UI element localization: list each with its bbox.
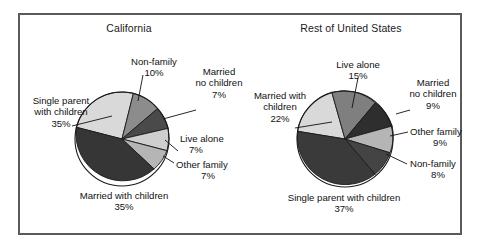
label-married-with-children-ca-value: 35% [54,201,194,212]
label-single-parent-ca-line1: Single parent [22,95,100,106]
pie-chart-figure: California Non-family 10% Married no chi… [0,0,480,251]
label-single-parent-us: Single parent with children 37% [262,192,426,215]
panel-title-california: California [18,22,240,34]
label-single-parent-ca-line2: with children [22,106,100,117]
label-non-family-us-name: Non-family [410,158,480,169]
label-non-family-ca-name: Non-family [116,56,192,67]
label-married-with-children-ca: Married with children 35% [54,190,194,213]
label-single-parent-ca-value: 35% [22,118,100,129]
label-married-no-children-us-value: 9% [396,100,470,111]
label-married-no-children-us-line1: Married [396,77,470,88]
label-other-family-ca-value: 7% [176,170,240,181]
label-married-with-children-us-line2: children [240,101,320,112]
label-single-parent-ca: Single parent with children 35% [22,95,100,129]
label-live-alone-us-name: Live alone [322,59,394,70]
label-other-family-ca: Other family 7% [176,159,250,182]
label-single-parent-us-name: Single parent with children [262,192,426,203]
label-married-with-children-us-value: 22% [240,113,320,124]
label-live-alone-us-value: 15% [322,70,394,81]
label-married-no-children-us: Married no children 9% [396,77,470,111]
label-other-family-ca-name: Other family [176,159,250,170]
label-non-family-ca: Non-family 10% [116,56,192,79]
label-married-with-children-ca-name: Married with children [54,190,194,201]
panel-title-rest-of-us: Rest of United States [240,22,462,34]
label-non-family-us-value: 8% [410,169,466,180]
label-single-parent-us-value: 37% [262,203,426,214]
label-married-with-children-us: Married with children 22% [240,90,320,124]
label-live-alone-us: Live alone 15% [322,59,394,82]
label-non-family-ca-value: 10% [116,67,192,78]
label-married-with-children-us-line1: Married with [240,90,320,101]
label-other-family-us-value: 9% [410,137,470,148]
label-other-family-us: Other family 9% [410,126,480,149]
label-other-family-us-name: Other family [410,126,480,137]
label-non-family-us: Non-family 8% [410,158,480,181]
label-married-no-children-us-line2: no children [396,88,470,99]
